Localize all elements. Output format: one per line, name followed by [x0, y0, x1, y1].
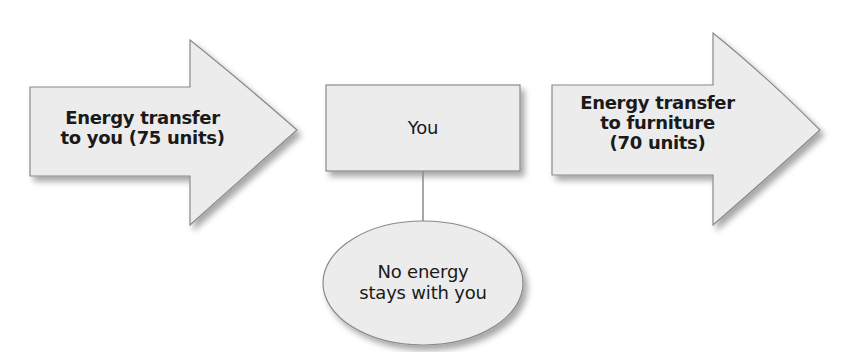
output-arrow-line3: (70 units)	[570, 133, 745, 153]
you-label: You	[408, 117, 438, 138]
center-box-label: You	[326, 117, 520, 138]
input-arrow-line1: Energy transfer	[55, 108, 230, 128]
input-arrow-label: Energy transfer to you (75 units)	[55, 108, 230, 148]
retained-line1: No energy	[323, 261, 523, 282]
retained-line2: stays with you	[323, 282, 523, 303]
input-arrow-line2: to you (75 units)	[55, 128, 230, 148]
output-arrow-line2: to furniture	[570, 113, 745, 133]
retained-ellipse-label: No energy stays with you	[323, 261, 523, 303]
output-arrow-line1: Energy transfer	[570, 93, 745, 113]
output-arrow-label: Energy transfer to furniture (70 units)	[570, 93, 745, 153]
